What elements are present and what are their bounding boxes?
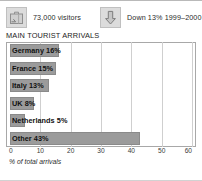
bar-row[interactable]: Italy 13% — [10, 77, 192, 95]
x-axis-caption: % of total arrivals — [9, 158, 61, 165]
chart-plot-area: Germany 16%France 15%Italy 13%UK 8%Nethe… — [10, 42, 192, 147]
suitcase-icon — [6, 7, 27, 28]
stat-visitors: 73,000 visitors — [6, 5, 81, 29]
bar-series: Germany 16%France 15%Italy 13%UK 8%Nethe… — [10, 42, 192, 147]
x-tick-label: 10 — [37, 147, 44, 154]
x-tick-label: 20 — [67, 147, 74, 154]
x-tick-label: 30 — [97, 147, 104, 154]
bar-row[interactable]: UK 8% — [10, 95, 192, 113]
x-tick-label: 50 — [158, 147, 165, 154]
tourism-stats-panel: 73,000 visitors Down 13% 1999–2000 MAIN … — [0, 0, 202, 181]
bar-value-label: Other 43% — [12, 132, 49, 145]
gridline — [192, 42, 193, 147]
x-tick-label: 40 — [128, 147, 135, 154]
bar-value-label: France 15% — [12, 62, 53, 75]
x-axis-ticks: 0102030405060 — [10, 147, 192, 157]
x-tick-label: 60 — [185, 147, 192, 154]
stat-visitors-label: 73,000 visitors — [33, 13, 81, 22]
chart-title: MAIN TOURIST ARRIVALS — [6, 31, 99, 40]
bar-row[interactable]: Germany 16% — [10, 42, 192, 60]
down-arrow-icon — [100, 7, 121, 28]
bar-row[interactable]: Other 43% — [10, 130, 192, 148]
bar-value-label: Germany 16% — [12, 44, 61, 57]
bar-value-label: Italy 13% — [12, 79, 44, 92]
bar-row[interactable]: Netherlands 5% — [10, 112, 192, 130]
stat-change-label: Down 13% 1999–2000 — [127, 13, 202, 22]
summary-stats-row: 73,000 visitors Down 13% 1999–2000 — [0, 5, 202, 29]
bar-value-label: UK 8% — [12, 97, 35, 110]
bar-row[interactable]: France 15% — [10, 60, 192, 78]
bar-value-label: Netherlands 5% — [12, 114, 67, 127]
stat-change: Down 13% 1999–2000 — [100, 5, 202, 29]
x-tick-label: 0 — [9, 147, 13, 154]
